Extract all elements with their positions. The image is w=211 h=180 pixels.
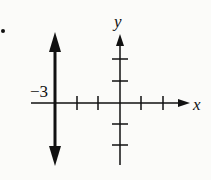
y-axis-arrow-icon: [116, 34, 124, 46]
y-axis-label: y: [112, 12, 122, 31]
arrow-down-icon: [49, 146, 61, 166]
bullet-dot: [1, 29, 5, 33]
y-axis: [112, 34, 128, 165]
arrow-up-icon: [49, 32, 61, 52]
x-axis-arrow-icon: [178, 99, 190, 107]
vertical-line-label: −3: [30, 82, 48, 101]
vertical-line-graph: [49, 32, 61, 166]
coordinate-graph: x y −3: [0, 0, 211, 180]
x-axis-label: x: [192, 95, 201, 114]
